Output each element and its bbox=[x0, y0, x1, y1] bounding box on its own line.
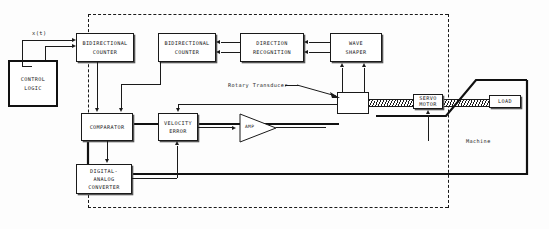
block-digital-analog-converter[interactable]: DIGITAL- ANALOG CONVERTER bbox=[76, 164, 132, 194]
counter1-label-line2: COUNTER bbox=[93, 48, 117, 56]
comparator-to-dac-line bbox=[107, 141, 108, 159]
block-bidirectional-counter-2[interactable]: BIDIRECTIONAL COUNTER bbox=[158, 33, 216, 62]
machine-outline bbox=[86, 78, 538, 182]
machine-annotation: Machine bbox=[466, 138, 491, 144]
direction-recognition-label-line1: DIRECTION bbox=[256, 39, 287, 47]
amp-out-line bbox=[276, 127, 326, 128]
block-velocity-error[interactable]: VELOCITY ERROR bbox=[158, 113, 198, 141]
c2-down-line-1 bbox=[160, 62, 161, 84]
counter1-label-line1: BIDIRECTIONAL bbox=[82, 39, 127, 47]
dr-to-c2-arrow-lower bbox=[216, 50, 220, 54]
dac-label-line3: CONVERTER bbox=[88, 183, 119, 191]
wave-shaper-label-line1: WAVE bbox=[349, 39, 363, 47]
diagram-canvas: CONTROL LOGIC x(t) BIDIRECTIONAL COUNTER… bbox=[0, 0, 549, 229]
counter2-label-line2: COUNTER bbox=[175, 48, 199, 56]
boundary-top bbox=[88, 14, 448, 15]
input-signal-label: x(t) bbox=[32, 30, 47, 36]
ws-to-dr-line-lower bbox=[309, 52, 330, 53]
ws-to-dr-line-upper bbox=[309, 42, 330, 43]
amplifier-label: AMP bbox=[245, 124, 254, 129]
c1-to-comparator-line bbox=[97, 62, 98, 108]
servo-motor-feed-line bbox=[428, 115, 429, 141]
c2-left-line bbox=[121, 84, 161, 85]
control-logic-label-line1: CONTROL bbox=[21, 75, 45, 83]
block-control-logic[interactable]: CONTROL LOGIC bbox=[8, 60, 58, 107]
dr-to-c2-line-upper bbox=[221, 42, 240, 43]
c2-down-line-2 bbox=[121, 84, 122, 108]
velocity-error-label-line1: VELOCITY bbox=[164, 119, 192, 127]
dac-to-velocity-error-arrow bbox=[175, 141, 179, 145]
xt-line-to-cl bbox=[22, 66, 32, 67]
block-direction-recognition[interactable]: DIRECTION RECOGNITION bbox=[240, 33, 304, 62]
dac-out-vertical bbox=[177, 146, 178, 178]
dac-label-line2: ANALOG bbox=[94, 175, 115, 183]
velocity-error-label-line2: ERROR bbox=[169, 127, 186, 135]
block-comparator[interactable]: COMPARATOR bbox=[81, 113, 133, 141]
wave-shaper-label-line2: SHAPER bbox=[346, 48, 367, 56]
td-to-ws-arrow-left bbox=[340, 63, 344, 67]
dr-to-c2-line-lower bbox=[221, 52, 240, 53]
transducer-feedback-horizontal bbox=[178, 104, 338, 105]
counter2-label-line1: BIDIRECTIONAL bbox=[164, 39, 209, 47]
direction-recognition-label-line2: RECOGNITION bbox=[253, 48, 291, 56]
comparator-to-dac-arrow bbox=[105, 159, 109, 163]
ws-to-dr-arrow-lower bbox=[304, 50, 308, 54]
dac-label-line1: DIGITAL- bbox=[90, 167, 118, 175]
block-bidirectional-counter-1[interactable]: BIDIRECTIONAL COUNTER bbox=[76, 33, 134, 62]
velocity-error-to-amp-line bbox=[198, 127, 234, 128]
ws-to-dr-arrow-upper bbox=[304, 40, 308, 44]
xt-line-horizontal bbox=[22, 40, 74, 41]
block-wave-shaper[interactable]: WAVE SHAPER bbox=[330, 33, 382, 62]
c1-to-comparator-arrow bbox=[95, 108, 99, 112]
control-logic-label-line2: LOGIC bbox=[24, 84, 41, 92]
c2-to-comparator-arrow bbox=[119, 108, 123, 112]
servo-motor-feed-arrow bbox=[426, 110, 430, 114]
td-to-ws-arrow-right bbox=[362, 63, 366, 67]
cl-out-vertical bbox=[45, 46, 46, 60]
boundary-bottom bbox=[88, 207, 448, 208]
dr-to-c2-arrow-upper bbox=[216, 40, 220, 44]
transducer-feedback-arrow bbox=[176, 108, 180, 112]
comparator-label: COMPARATOR bbox=[90, 123, 125, 131]
cl-out-horizontal bbox=[45, 46, 74, 47]
dac-out-horizontal bbox=[132, 178, 177, 179]
xt-line-vertical bbox=[22, 40, 23, 66]
